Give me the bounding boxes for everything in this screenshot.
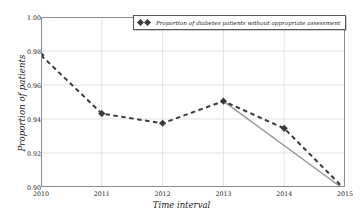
legend-label: Proportion of diabetes patients without …	[156, 20, 340, 26]
y-tick-label: 0.94	[7, 116, 41, 123]
gridlines	[41, 17, 345, 187]
x-tick-label: 2010	[24, 190, 58, 197]
x-axis-title: Time interval	[0, 200, 363, 210]
x-tick-label: 2012	[146, 190, 180, 197]
x-tick-label: 2015	[328, 190, 362, 197]
y-tick-label: 0.96	[7, 82, 41, 89]
y-tick-label: 0.92	[7, 150, 41, 157]
axes-frame	[42, 18, 345, 187]
diamond-marker-icon	[138, 20, 152, 25]
plot-area	[41, 17, 345, 187]
x-tick-label: 2011	[85, 190, 119, 197]
x-tick-label: 2013	[206, 190, 240, 197]
y-tick-label: 1.00	[7, 14, 41, 21]
x-tick-label: 2014	[267, 190, 301, 197]
data-series-line	[41, 55, 345, 187]
chart-legend[interactable]: Proportion of diabetes patients without …	[133, 15, 346, 30]
y-tick-label: 0.98	[7, 48, 41, 55]
chart-figure: Proportion of patients 1.00 0.98 0.96 0.…	[0, 0, 363, 219]
chart-canvas	[41, 17, 345, 187]
